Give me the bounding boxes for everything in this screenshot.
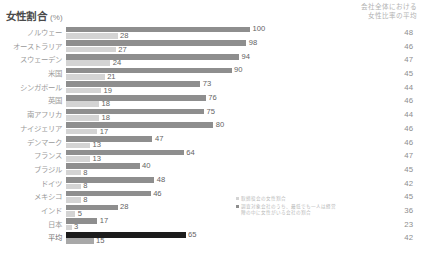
right-column-value: 48 xyxy=(329,26,421,40)
bar-board-share: 17 xyxy=(66,129,97,135)
bar-value-company-share: 46 xyxy=(151,190,162,198)
bar-company-share: 64 xyxy=(66,150,184,156)
bar-value-company-share: 75 xyxy=(204,108,215,116)
bar-company-share: 100 xyxy=(66,27,250,33)
row-label: 米国 xyxy=(0,67,66,81)
chart-row: ナイジェリア801746 xyxy=(0,122,421,136)
bar-fill-board-share xyxy=(66,101,99,107)
row-label: 南アフリカ xyxy=(0,108,66,122)
bar-company-share: 90 xyxy=(66,68,232,74)
bar-value-board-share: 8 xyxy=(81,169,88,177)
right-column-value: 45 xyxy=(329,67,421,81)
chart-row: インド28536 xyxy=(0,204,421,218)
right-column-value: 46 xyxy=(329,40,421,54)
bar-fill-board-share xyxy=(66,238,94,244)
bar-fill-company-share xyxy=(66,177,154,183)
bar-value-board-share: 19 xyxy=(101,87,112,95)
right-column-value: 46 xyxy=(329,122,421,136)
row-bars: 7319 xyxy=(66,81,329,95)
bar-value-board-share: 21 xyxy=(105,73,116,81)
bar-board-share: 15 xyxy=(66,238,94,244)
row-bars: 6515 xyxy=(66,231,329,245)
row-label: インド xyxy=(0,204,66,218)
bar-company-share: 65 xyxy=(66,232,186,238)
bar-fill-company-share xyxy=(66,150,184,156)
page-title: 女性割合 (%) xyxy=(6,8,63,23)
bar-value-board-share: 15 xyxy=(94,237,105,245)
chart-row: ノルウェー1002848 xyxy=(0,26,421,40)
bar-value-board-share: 28 xyxy=(118,32,129,40)
bar-company-share: 47 xyxy=(66,136,152,142)
bar-company-share: 76 xyxy=(66,95,206,101)
bar-value-company-share: 47 xyxy=(152,135,163,143)
bar-fill-board-share xyxy=(66,143,90,149)
bar-value-company-share: 64 xyxy=(184,149,195,157)
row-label: 日本 xyxy=(0,218,66,232)
row-bars: 9021 xyxy=(66,67,329,81)
row-bars: 4713 xyxy=(66,136,329,150)
chart-legend: 取締役会の女性割合 調査対象会社のうち、最低でも一人は経営陣の中に女性がいる会社… xyxy=(236,196,340,218)
chart-rows: ノルウェー1002848オーストラリア982746スウェーデン942447米国9… xyxy=(0,26,421,245)
bar-company-share: 94 xyxy=(66,54,239,60)
right-column-value: 45 xyxy=(329,163,421,177)
row-bars: 408 xyxy=(66,163,329,177)
bar-fill-company-share xyxy=(66,40,246,46)
chart-row: スウェーデン942447 xyxy=(0,53,421,67)
bar-board-share: 8 xyxy=(66,184,81,190)
bar-company-share: 98 xyxy=(66,40,246,46)
bar-fill-board-share xyxy=(66,60,110,66)
right-column-header: 会社全体における 女性比率の平均 xyxy=(325,3,417,20)
bar-board-share: 5 xyxy=(66,211,75,217)
bar-value-company-share: 98 xyxy=(246,39,257,47)
bar-value-board-share: 27 xyxy=(116,46,127,54)
bar-value-company-share: 17 xyxy=(97,217,108,225)
right-column-value: 44 xyxy=(329,108,421,122)
bar-board-share: 13 xyxy=(66,156,90,162)
row-bars: 6413 xyxy=(66,149,329,163)
bar-fill-company-share xyxy=(66,95,206,101)
bar-fill-board-share xyxy=(66,197,81,203)
bar-value-company-share: 94 xyxy=(239,53,250,61)
row-bars: 10028 xyxy=(66,26,329,40)
bar-value-board-share: 18 xyxy=(99,100,110,108)
bar-fill-board-share xyxy=(66,170,81,176)
bar-fill-company-share xyxy=(66,232,186,238)
chart-row: メキシコ46845 xyxy=(0,190,421,204)
row-bars: 8017 xyxy=(66,122,329,136)
chart-row: 平均651542 xyxy=(0,231,421,245)
bar-fill-company-share xyxy=(66,205,118,211)
chart-container: 女性割合 (%) 会社全体における 女性比率の平均 ノルウェー1002848オー… xyxy=(0,0,421,275)
bar-value-board-share: 17 xyxy=(97,128,108,136)
right-column-header-line1: 会社全体における xyxy=(325,3,417,12)
bar-fill-company-share xyxy=(66,109,204,115)
legend-label-board-share: 取締役会の女性割合 xyxy=(241,196,340,202)
bar-value-board-share: 5 xyxy=(75,210,82,218)
bar-company-share: 80 xyxy=(66,122,213,128)
bar-board-share: 8 xyxy=(66,170,81,176)
bar-company-share: 48 xyxy=(66,177,154,183)
bar-board-share: 21 xyxy=(66,74,105,80)
row-bars: 7618 xyxy=(66,94,329,108)
page-title-text: 女性割合 xyxy=(6,10,47,22)
right-column-header-line2: 女性比率の平均 xyxy=(325,12,417,21)
row-label: オーストラリア xyxy=(0,40,66,54)
bar-fill-board-share xyxy=(66,115,99,121)
bar-fill-company-share xyxy=(66,163,140,169)
row-bars: 488 xyxy=(66,177,329,191)
row-label: 平均 xyxy=(0,231,66,245)
row-label: ブラジル xyxy=(0,163,66,177)
bar-company-share: 40 xyxy=(66,163,140,169)
chart-row: オーストラリア982746 xyxy=(0,40,421,54)
bar-company-share: 28 xyxy=(66,205,118,211)
legend-item-company-share: 調査対象会社のうち、最低でも一人は経営陣の中に女性がいる会社の割合 xyxy=(236,204,340,216)
bar-fill-board-share xyxy=(66,129,97,135)
bar-value-board-share: 18 xyxy=(99,114,110,122)
bar-value-company-share: 73 xyxy=(200,80,211,88)
bar-fill-company-share xyxy=(66,191,151,197)
row-label: ノルウェー xyxy=(0,26,66,40)
bar-fill-board-share xyxy=(66,74,105,80)
bar-value-company-share: 76 xyxy=(206,94,217,102)
right-column-value: 46 xyxy=(329,136,421,150)
right-column-value: 42 xyxy=(329,177,421,191)
row-label: 英国 xyxy=(0,94,66,108)
